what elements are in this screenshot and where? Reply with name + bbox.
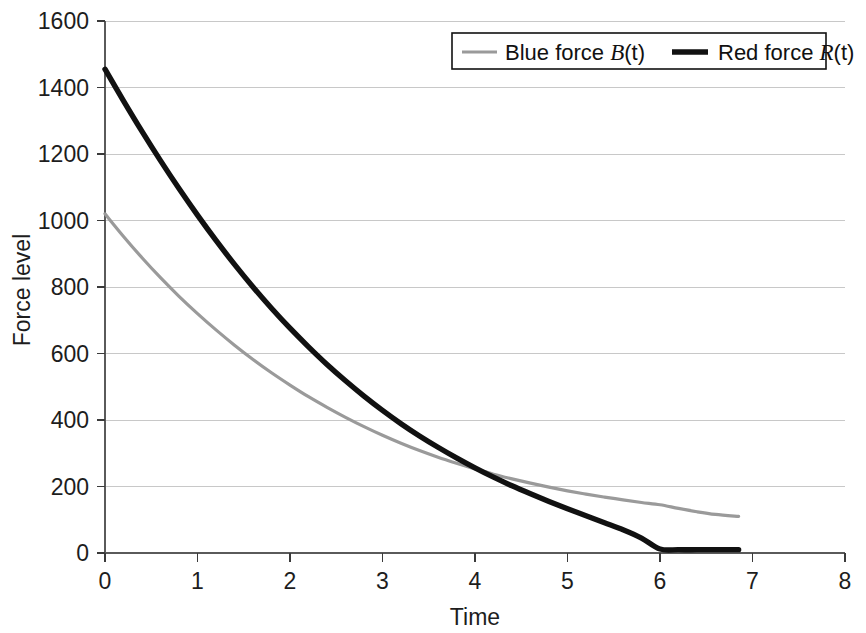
x-axis-title: Time [450,604,500,630]
y-tick-label: 600 [51,341,89,367]
x-tick-label: 7 [746,568,759,594]
x-tick-label: 5 [561,568,574,594]
chart-figure: 02004006008001000120014001600 012345678 … [0,0,866,633]
x-tick-label: 1 [191,568,204,594]
legend[interactable]: Blue force B(t) Red force R(t) [452,33,854,69]
x-tick-label: 2 [284,568,297,594]
legend-label-blue-force: Blue force B(t) [505,40,645,65]
series-line-blue-force [105,214,739,517]
y-tick-label: 200 [51,474,89,500]
data-series [105,69,739,550]
x-axis-ticks: 012345678 [99,553,852,594]
series-line-red-force [105,69,739,550]
y-tick-label: 1400 [38,75,89,101]
y-tick-label: 1000 [38,208,89,234]
legend-label-red-force: Red force R(t) [718,40,854,65]
gridlines [105,21,845,553]
line-chart: 02004006008001000120014001600 012345678 … [0,0,866,633]
x-tick-label: 8 [839,568,852,594]
x-tick-label: 4 [469,568,482,594]
y-tick-label: 400 [51,407,89,433]
y-tick-label: 800 [51,274,89,300]
y-tick-label: 0 [76,540,89,566]
y-tick-label: 1600 [38,8,89,34]
y-axis-title: Force level [9,234,35,346]
y-axis-ticks: 02004006008001000120014001600 [38,8,105,566]
x-tick-label: 3 [376,568,389,594]
x-tick-label: 0 [99,568,112,594]
y-tick-label: 1200 [38,141,89,167]
x-tick-label: 6 [654,568,667,594]
